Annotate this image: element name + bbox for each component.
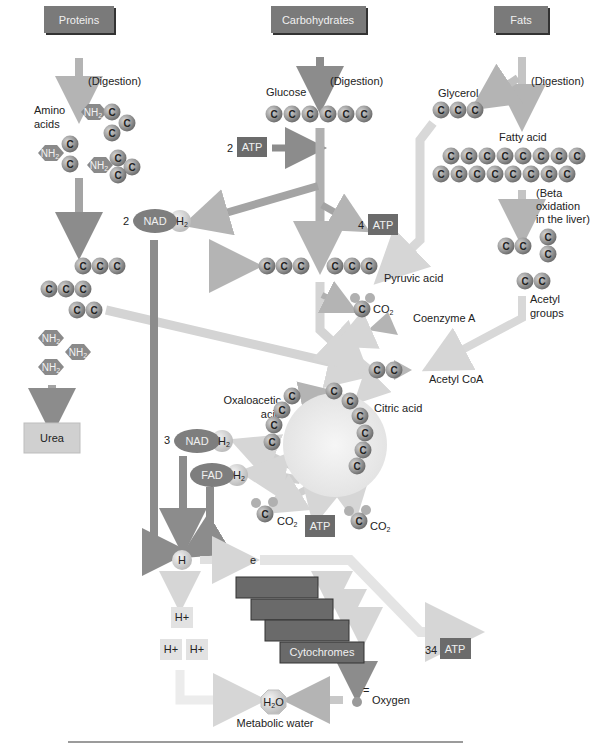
hydrogen-atom: H (172, 550, 192, 570)
svg-text:C: C (324, 109, 331, 120)
svg-text:C: C (342, 109, 349, 120)
svg-text:34: 34 (425, 644, 437, 656)
nadh2-glycolysis: 2 NAD H2 (123, 209, 191, 233)
electron-label: e (250, 554, 256, 566)
svg-text:C: C (288, 109, 295, 120)
svg-text:C: C (79, 284, 86, 295)
svg-text:C: C (108, 107, 115, 118)
svg-text:C: C (437, 169, 444, 180)
svg-text:C: C (355, 516, 362, 527)
svg-text:CO2: CO2 (277, 515, 298, 528)
svg-text:2: 2 (227, 142, 233, 154)
cytochromes-label: Cytochromes (290, 646, 355, 658)
svg-text:ATP: ATP (310, 520, 331, 532)
svg-text:C: C (360, 109, 367, 120)
metabolic-water-label: Metabolic water (236, 717, 313, 729)
source-proteins: Proteins (44, 6, 116, 35)
svg-text:C: C (544, 249, 551, 260)
svg-text:C: C (261, 509, 268, 520)
svg-text:C: C (270, 109, 277, 120)
pyruvic-acid-label: Pyruvic acid (384, 272, 443, 284)
svg-text:C: C (128, 162, 135, 173)
svg-text:C: C (501, 151, 508, 162)
svg-text:C: C (471, 105, 478, 116)
source-carbohydrates: Carbohydrates (271, 6, 368, 35)
svg-text:Fats: Fats (510, 14, 532, 26)
svg-text:C: C (454, 105, 461, 116)
svg-text:C: C (573, 151, 580, 162)
svg-text:Proteins: Proteins (59, 14, 100, 26)
svg-text:Urea: Urea (40, 432, 65, 444)
pyruvic-acid-chain: C C C (327, 258, 378, 275)
svg-text:H: H (178, 554, 186, 566)
svg-text:C: C (348, 261, 355, 272)
cytochrome-chain: Cytochromes (236, 577, 364, 663)
svg-text:C: C (491, 169, 498, 180)
svg-text:C: C (373, 365, 380, 376)
svg-text:C: C (361, 428, 368, 439)
co2-released-krebs-2: C CO2 (344, 505, 391, 533)
fadh2-krebs: FAD H2 (190, 463, 248, 487)
glycerol-chain: C C C (433, 102, 484, 119)
svg-text:H+: H+ (175, 611, 189, 623)
svg-text:C: C (90, 305, 97, 316)
svg-text:C: C (96, 261, 103, 272)
acetyl-coa-carbons: C C (369, 362, 403, 379)
svg-text:C: C (356, 411, 363, 422)
svg-text:C: C (79, 261, 86, 272)
svg-text:NAD: NAD (185, 435, 208, 447)
atp-input: 2 ATP (227, 137, 267, 157)
oxaloacetic-acid-label: Oxaloacetic (224, 394, 282, 406)
svg-text:FAD: FAD (201, 469, 222, 481)
amine-groups: NH2 NH2 NH2 (38, 330, 91, 375)
svg-text:(Beta: (Beta (536, 187, 563, 199)
svg-text:C: C (365, 261, 372, 272)
oxygen: = Oxygen (352, 684, 410, 707)
svg-text:C: C (108, 128, 115, 139)
svg-text:CO2: CO2 (370, 520, 391, 533)
digestion-label-proteins: (Digestion) (88, 75, 141, 87)
svg-text:C: C (538, 276, 545, 287)
atp-krebs: ATP (305, 515, 335, 537)
amino-acids-label: Amino (34, 104, 65, 116)
source-fats: Fats (494, 6, 550, 35)
svg-text:C: C (455, 169, 462, 180)
amino-acid-2: NH2 C C (38, 136, 79, 173)
acetyl-groups-carbons: C C (517, 273, 551, 290)
digestion-label-fats: (Digestion) (531, 75, 584, 87)
two-carbon-chain-protein: C C (69, 302, 103, 319)
fatty-acid-chain: C C C C C C C C C C C C C C C C (433, 148, 586, 183)
two-carbon-fragments: C C C C (498, 229, 557, 263)
svg-text:C: C (346, 396, 353, 407)
metabolic-water: H2O Metabolic water (236, 690, 313, 729)
svg-text:C: C (390, 365, 397, 376)
svg-text:CO2: CO2 (373, 303, 394, 316)
svg-text:C: C (563, 169, 570, 180)
coenzyme-a-label: Coenzyme A (413, 312, 476, 324)
svg-text:ATP: ATP (445, 643, 466, 655)
svg-text:C: C (66, 139, 73, 150)
svg-text:C: C (473, 169, 480, 180)
svg-text:C: C (509, 169, 516, 180)
svg-text:=: = (363, 684, 369, 696)
fatty-acid-label: Fatty acid (499, 131, 547, 143)
citric-acid-cycle (283, 393, 387, 497)
glycerol-label: Glycerol (438, 87, 478, 99)
acetyl-groups-label: Acetyl (530, 293, 560, 305)
svg-text:C: C (521, 276, 528, 287)
svg-text:C: C (270, 420, 277, 431)
svg-text:C: C (519, 241, 526, 252)
svg-text:2: 2 (123, 215, 129, 227)
three-carbon-chain-protein: C C C (75, 258, 126, 275)
nadh2-krebs: 3 NAD H2 (164, 429, 233, 453)
svg-text:C: C (527, 169, 534, 180)
svg-text:C: C (437, 105, 444, 116)
svg-text:C: C (555, 151, 562, 162)
svg-text:C: C (297, 261, 304, 272)
urea-box: Urea (24, 423, 80, 453)
svg-text:C: C (447, 151, 454, 162)
svg-text:C: C (330, 386, 337, 397)
svg-text:C: C (331, 261, 338, 272)
atp-output-glycolysis: 4 ATP (358, 214, 398, 235)
svg-text:C: C (45, 284, 52, 295)
